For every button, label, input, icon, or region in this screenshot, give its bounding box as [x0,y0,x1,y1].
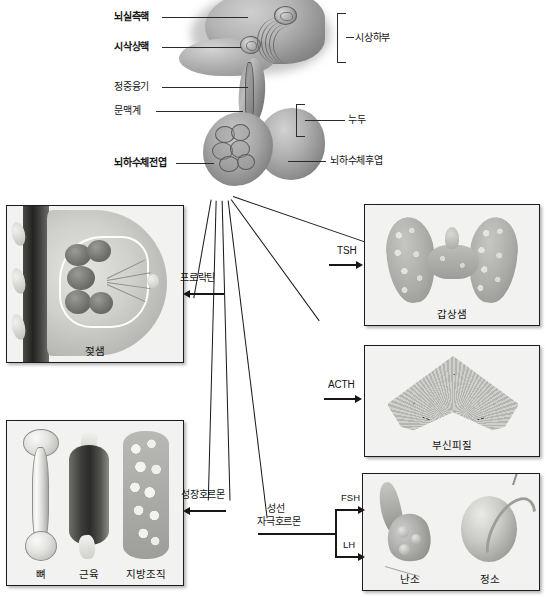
bone-distal-end [25,531,57,561]
arrow-growth-hormone [190,510,226,512]
hormone-label-growth-hormone: 성장호르몬 [181,489,225,501]
arrow-acth [324,398,356,400]
fan-line-gonadotropin [227,201,267,519]
arrow-tsh [329,264,357,266]
leader-supraoptic-nucleus [162,47,241,48]
hormone-label-lh: LH [343,540,355,551]
label-median-eminence: 정중융기 [114,81,149,93]
pyramidal-lobe [445,227,459,249]
caption-testis: 정소 [455,571,525,586]
hormone-label-prolactin: 프로락틴 [180,272,215,284]
arrow-prolactin [190,293,224,295]
leader-posterior-pituitary [288,161,326,162]
bracket-infundibulum [296,104,305,137]
capillary-plexus [219,156,239,172]
caption-ovary: 난소 [375,571,445,586]
leader-paraventricular-nucleus [162,17,248,18]
label-posterior-pituitary: 뇌하수체후엽 [330,155,383,167]
label-infundibulum: 누두 [348,114,366,126]
arrowhead-fsh [358,506,365,514]
caption-thyroid-gland: 갑상샘 [365,306,539,321]
ovarian-follicle [397,526,409,538]
diagram-canvas: 뇌실측핵 시삭상핵 정중융기 문맥계 뇌하수체전엽 시상하부 누두 뇌하수체후엽 [0,0,547,597]
vas-deferens [512,473,519,485]
axon-tract [273,26,306,64]
fan-line-acth [230,199,319,321]
gland-lobule [65,290,91,314]
panel-growth-targets: 뼈 근육 지방조직 [6,420,184,586]
gland-lobule [89,292,113,314]
hormone-label-fsh: FSH [341,493,360,504]
label-anterior-pituitary: 뇌하수체전엽 [114,157,167,169]
capillary-plexus [231,124,250,141]
caption-muscle: 근육 [67,566,111,581]
caption-adrenal-cortex: 부신피질 [365,437,539,452]
bracket-hypothalamus [337,13,346,63]
capillary-plexus [237,154,255,170]
panel-adrenal-cortex: 부신피질 [364,345,540,457]
thyroid-isthmus [427,245,479,279]
caption-adipose: 지방조직 [115,566,177,581]
hypothalamus-pituitary-illustration [185,0,360,215]
gonadotropin-split-bar [335,509,337,557]
chest-wall [23,206,49,363]
arrowhead-lh [358,553,365,561]
gonadotropin-stem [258,533,336,535]
panel-mammary-gland: 젖샘 [6,205,184,363]
leader-anterior-pituitary [176,163,214,164]
gland-lobule [87,240,111,262]
fan-line-growth-hormone [221,201,230,501]
label-hypothalamus: 시상하부 [355,32,390,44]
hormone-label-gonadotropin-line1: 성선 [267,503,285,515]
caption-mammary-gland: 젖샘 [7,343,183,358]
arrowhead-prolactin [183,290,190,298]
gland-lobule [67,266,95,290]
nipple [147,274,159,288]
leader-median-eminence [162,87,248,88]
fan-line-growth-hormone-2 [207,201,216,501]
leader-infundibulum [305,120,345,121]
panel-thyroid-gland: 갑상샘 [364,204,540,326]
leader-portal-system [156,111,243,112]
ovarian-follicle [399,544,410,555]
label-supraoptic-nucleus: 시삭상핵 [114,41,149,53]
hormone-label-gonadotropin-line2: 자극호르몬 [257,516,301,528]
bone-shaft [32,447,49,543]
bracket-tick-hypothalamus [346,37,354,38]
label-paraventricular-nucleus: 뇌실측핵 [114,11,149,23]
hormone-label-acth: ACTH [328,379,354,391]
ovarian-follicle [411,534,421,544]
arrowhead-acth [355,395,362,403]
label-portal-system: 문맥계 [114,105,140,117]
adipose-tissue [123,431,169,559]
caption-bone: 뼈 [19,566,63,581]
panel-gonads: 난소 정소 [362,473,540,591]
arrowhead-tsh [356,261,363,269]
arrowhead-growth-hormone [183,507,190,515]
hormone-label-tsh: TSH [337,245,356,257]
skeletal-muscle [69,445,109,545]
